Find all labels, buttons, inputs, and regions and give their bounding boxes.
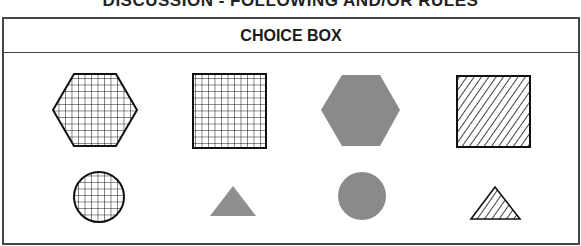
square-grid-shape[interactable]: [193, 74, 266, 148]
triangle-striped-shape[interactable]: [471, 187, 520, 219]
hexagon-grid-shape[interactable]: [53, 74, 137, 146]
choice-box-shapes: [0, 0, 581, 246]
square-striped-shape[interactable]: [457, 76, 530, 147]
circle-grid-shape[interactable]: [74, 172, 124, 222]
circle-gray-shape[interactable]: [338, 172, 386, 220]
triangle-gray-shape[interactable]: [210, 186, 256, 216]
hexagon-gray-shape[interactable]: [321, 75, 400, 146]
